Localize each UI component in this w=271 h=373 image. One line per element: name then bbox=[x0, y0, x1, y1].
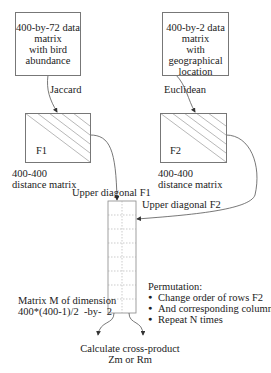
matrix-col2-arrow bbox=[129, 313, 143, 335]
f2-label: F2 bbox=[170, 145, 181, 156]
text-line: 400-400 bbox=[158, 168, 222, 179]
f1-label: F1 bbox=[36, 145, 47, 156]
f1-caption: 400-400 distance matrix bbox=[12, 168, 76, 190]
geographical-location-box: 400-by-2 data matrix with geographical l… bbox=[162, 12, 229, 76]
text-line: Calculate cross-product bbox=[80, 343, 180, 354]
text-line: 400-by-2 data bbox=[163, 22, 228, 33]
permutation-step: And corresponding columns! bbox=[148, 303, 271, 314]
upper-diagonal-f2-label: Upper diagonal F2 bbox=[142, 199, 221, 210]
text-line: with geographical bbox=[163, 44, 228, 66]
text-line: matrix bbox=[163, 33, 228, 44]
upper-diagonal-f1-label: Upper diagonal F1 bbox=[72, 187, 151, 198]
f2-matrix-box: F2 bbox=[160, 113, 227, 163]
text-line: with bird bbox=[16, 44, 80, 55]
permutation-title: Permutation: bbox=[148, 281, 271, 292]
result-text: Calculate cross-product Zm or Rm bbox=[80, 343, 180, 365]
bird-abundance-text: 400-by-72 data matrix with bird abundanc… bbox=[16, 22, 80, 66]
text-line: Zm or Rm bbox=[80, 354, 180, 365]
text-line: 400-by-72 data bbox=[16, 22, 80, 33]
permutation-step: Repeat N times bbox=[148, 314, 271, 325]
euclidean-label: Euclidean bbox=[164, 84, 206, 95]
permutation-step: Change order of rows F2 bbox=[148, 292, 271, 303]
text-line: distance matrix bbox=[12, 179, 76, 190]
geographical-location-text: 400-by-2 data matrix with geographical l… bbox=[163, 22, 228, 77]
bird-abundance-box: 400-by-72 data matrix with bird abundanc… bbox=[15, 12, 81, 76]
text-line: matrix bbox=[16, 33, 80, 44]
permutation-steps: Change order of rows F2 And correspondin… bbox=[148, 292, 271, 325]
f1-matrix-box: F1 bbox=[25, 113, 91, 163]
text-line: 400*(400-1)/2 -by- 2 bbox=[18, 306, 116, 317]
text-line: Matrix M of dimension bbox=[18, 295, 116, 306]
text-line: 400-400 bbox=[12, 168, 76, 179]
text-line: distance matrix bbox=[158, 179, 222, 190]
text-line: location bbox=[163, 66, 228, 77]
f2-caption: 400-400 distance matrix bbox=[158, 168, 222, 190]
text-line: abundance bbox=[16, 55, 80, 66]
matrix-m-caption: Matrix M of dimension 400*(400-1)/2 -by-… bbox=[18, 295, 116, 317]
jaccard-label: Jaccard bbox=[50, 84, 81, 95]
permutation-note: Permutation: Change order of rows F2 And… bbox=[148, 281, 271, 325]
